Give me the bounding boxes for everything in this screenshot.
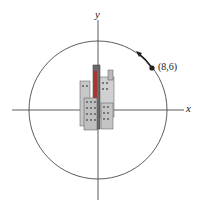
point-label: (8,6) (158, 61, 177, 72)
y-axis-label: y (95, 8, 100, 20)
point-marker (149, 65, 154, 70)
x-axis-label: x (186, 102, 191, 114)
city-buildings-icon (80, 65, 114, 130)
diagram-canvas (0, 0, 205, 206)
